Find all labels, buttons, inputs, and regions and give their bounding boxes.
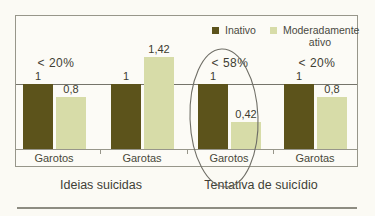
legend-item-inativo: Inativo xyxy=(212,24,256,36)
section-label-tentativa-de-suicidio: Tentativa de suicídio xyxy=(204,178,317,192)
legend: Inativo Moderadamente ativo xyxy=(212,24,357,48)
category-label: Garotos xyxy=(34,152,73,164)
legend-swatch-inativo-icon xyxy=(212,27,219,34)
bar-value-label-g2-s0: 1 xyxy=(210,70,216,83)
bar-moderadamente-ativo-g1 xyxy=(144,57,174,149)
bar-value-label-g3-s0: 1 xyxy=(296,70,302,83)
bar-moderadamente-ativo-g2 xyxy=(231,122,261,149)
bar-moderadamente-ativo-g0 xyxy=(56,97,86,149)
legend-item-moderadamente-ativo: Moderadamente ativo xyxy=(270,24,357,48)
bar-inativo-g1 xyxy=(111,84,141,149)
bar-value-label-g0-s1: 0,8 xyxy=(63,83,78,96)
bottom-rule-divider xyxy=(17,207,357,209)
category-label: Garotas xyxy=(295,152,334,164)
bar-value-label-g2-s1: 0,42 xyxy=(235,108,256,121)
chart-area: 11110,81,420,420,8 < 20% < 58% < 20% Gar… xyxy=(15,15,358,167)
category-label: Garotos xyxy=(209,152,248,164)
figure: 11110,81,420,420,8 < 20% < 58% < 20% Gar… xyxy=(0,0,375,216)
annotation-group-2: < 58% xyxy=(212,56,249,70)
legend-label: Moderadamente ativo xyxy=(283,24,357,48)
bar-value-label-g0-s0: 1 xyxy=(35,70,41,83)
bar-value-label-g1-s1: 1,42 xyxy=(148,43,169,56)
annotation-group-0: < 20% xyxy=(38,56,75,70)
category-label: Garotas xyxy=(122,152,161,164)
bar-inativo-g0 xyxy=(23,84,53,149)
legend-swatch-moderadamente-ativo-icon xyxy=(270,27,277,34)
legend-label: Inativo xyxy=(225,24,256,36)
annotation-group-3: < 20% xyxy=(299,56,336,70)
section-label-ideias-suicidas: Ideias suicidas xyxy=(60,178,142,192)
bar-value-label-g1-s0: 1 xyxy=(123,70,129,83)
bar-inativo-g3 xyxy=(284,84,314,149)
bar-value-label-g3-s1: 0,8 xyxy=(324,83,339,96)
bar-moderadamente-ativo-g3 xyxy=(317,97,347,149)
bar-inativo-g2 xyxy=(198,84,228,149)
